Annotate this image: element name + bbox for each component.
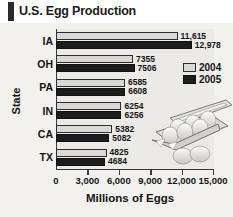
x-axis-tick-label: 0	[53, 175, 58, 186]
title-accent-bar	[8, 2, 14, 21]
y-axis-category-labels: IAOHPAINCATX	[0, 29, 53, 169]
bar-oh-2005	[56, 64, 135, 72]
value-label-tx-2005: 4684	[108, 157, 127, 166]
x-axis-tick-label: 3,000	[76, 175, 100, 186]
bar-oh-2004	[56, 55, 133, 63]
y-axis-label-in: IN	[1, 106, 53, 116]
y-axis-label-oh: OH	[1, 59, 53, 69]
bar-ia-2005	[56, 41, 192, 49]
bar-ca-2004	[56, 125, 112, 133]
y-axis-label-ca: CA	[1, 129, 53, 139]
y-axis-label-ia: IA	[1, 36, 53, 46]
legend-item-2005: 2005	[183, 74, 221, 85]
legend-label-2004: 2004	[199, 62, 221, 73]
bar-in-2005	[56, 111, 121, 119]
bar-pa-2005	[56, 88, 125, 96]
page-title: U.S. Egg Production	[19, 2, 136, 21]
bar-pa-2004	[56, 79, 125, 87]
y-axis-title: State	[10, 71, 22, 131]
bar-tx-2004	[56, 149, 107, 157]
legend-swatch-icon-2005	[183, 75, 196, 84]
bar-series-container: 11,61512,9787355750665856608625462565382…	[56, 29, 213, 169]
x-axis-tick-label: 15,000	[198, 175, 227, 186]
value-label-ca-2005: 5082	[112, 134, 131, 143]
bar-tx-2005	[56, 158, 105, 166]
bar-in-2004	[56, 102, 121, 110]
legend-swatch-icon-2004	[183, 63, 196, 72]
chart-title-bar: U.S. Egg Production	[0, 0, 233, 23]
y-axis-label-tx: TX	[1, 152, 53, 162]
y-axis-label-pa: PA	[1, 82, 53, 92]
bar-ca-2005	[56, 134, 109, 142]
value-label-oh-2005: 7506	[138, 64, 157, 73]
value-label-in-2005: 6256	[124, 111, 143, 120]
x-axis-tick-label: 6,000	[107, 175, 131, 186]
x-axis-tick-labels: 03,0006,0009,00012,00015,000	[0, 175, 233, 189]
chart-figure: U.S. Egg Production IAOHPAINCATX State 1…	[0, 0, 233, 217]
x-axis-tick-label: 12,000	[167, 175, 196, 186]
chart-legend: 20042005	[183, 62, 221, 86]
legend-item-2004: 2004	[183, 62, 221, 73]
bar-ia-2004	[56, 32, 178, 40]
x-axis-title: Millions of Eggs	[40, 192, 220, 204]
value-label-pa-2005: 6608	[128, 87, 147, 96]
x-axis-tick-label: 9,000	[138, 175, 162, 186]
value-label-ia-2005: 12,978	[195, 41, 221, 50]
legend-label-2005: 2005	[199, 74, 221, 85]
